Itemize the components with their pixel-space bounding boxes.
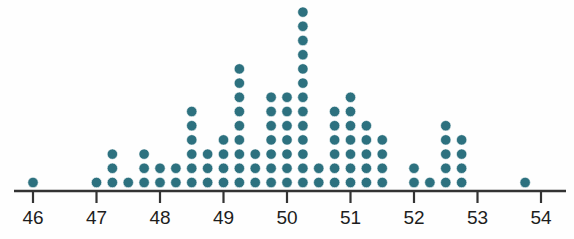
data-dot [441,149,451,159]
data-dot [329,149,339,159]
data-dot [520,177,530,187]
data-dot [298,106,308,116]
dot-stack [409,163,419,188]
data-dot [329,121,339,131]
data-dot [139,177,149,187]
data-dot [266,121,276,131]
data-dot [218,135,228,145]
data-dot [187,135,197,145]
data-dot [329,177,339,187]
x-axis-tick-label: 46 [22,207,43,228]
data-dot [298,64,308,74]
data-dot [171,177,181,187]
data-dot [234,135,244,145]
dot-stack [441,121,451,188]
data-dot [282,163,292,173]
data-dot [266,135,276,145]
dot-stack [187,106,197,187]
data-dot [298,135,308,145]
data-dot [361,163,371,173]
data-dot [139,163,149,173]
x-axis-tick-label: 54 [530,207,552,228]
data-dot [91,177,101,187]
data-dot [282,92,292,102]
dot-stack [377,135,387,188]
dot-plot-figure: 464748495051525354 [0,0,574,239]
data-dot [441,135,451,145]
data-dot [298,163,308,173]
dot-stack [218,135,228,188]
data-dot [282,177,292,187]
data-dot [409,177,419,187]
data-dot [187,177,197,187]
data-dot [218,149,228,159]
data-dot [266,177,276,187]
x-axis-tick-labels: 464748495051525354 [22,207,552,228]
data-dot [298,78,308,88]
data-dot [202,163,212,173]
data-dot [298,21,308,31]
data-dot [329,163,339,173]
data-dot [202,177,212,187]
data-dot [266,163,276,173]
data-dot [187,163,197,173]
dot-stack [456,135,466,188]
dot-stack [250,149,260,188]
data-dot [155,177,165,187]
x-axis-tick-label: 53 [467,207,488,228]
dot-stack [107,149,117,188]
data-dot [28,177,38,187]
data-dot [361,177,371,187]
data-dot [234,78,244,88]
dot-stack [282,92,292,188]
data-dot [266,106,276,116]
data-dot [377,177,387,187]
data-dot [345,106,355,116]
data-dot [187,106,197,116]
dot-stack [361,121,371,188]
data-dot [377,163,387,173]
data-dot [456,149,466,159]
data-dot [234,177,244,187]
dot-stacks-layer [28,7,531,188]
dot-stack [123,177,133,187]
data-dot [361,149,371,159]
data-dot [202,149,212,159]
x-axis-tick-label: 49 [213,207,234,228]
x-axis-tick-label: 48 [149,207,170,228]
data-dot [218,177,228,187]
dot-stack [520,177,530,187]
data-dot [234,106,244,116]
data-dot [171,163,181,173]
data-dot [345,177,355,187]
dot-stack [314,163,324,188]
data-dot [345,149,355,159]
data-dot [234,149,244,159]
data-dot [361,135,371,145]
data-dot [298,177,308,187]
data-dot [298,50,308,60]
data-dot [282,135,292,145]
data-dot [298,35,308,45]
dot-stack [28,177,38,187]
x-axis [14,191,566,203]
data-dot [155,163,165,173]
data-dot [377,149,387,159]
data-dot [107,149,117,159]
dot-stack [266,92,276,188]
data-dot [409,163,419,173]
dot-stack [329,106,339,187]
dot-stack [298,7,308,188]
data-dot [139,149,149,159]
data-dot [234,64,244,74]
data-dot [345,121,355,131]
data-dot [250,177,260,187]
data-dot [298,149,308,159]
data-dot [456,177,466,187]
data-dot [187,149,197,159]
data-dot [250,149,260,159]
dot-stack [171,163,181,188]
data-dot [377,135,387,145]
data-dot [425,177,435,187]
data-dot [234,163,244,173]
